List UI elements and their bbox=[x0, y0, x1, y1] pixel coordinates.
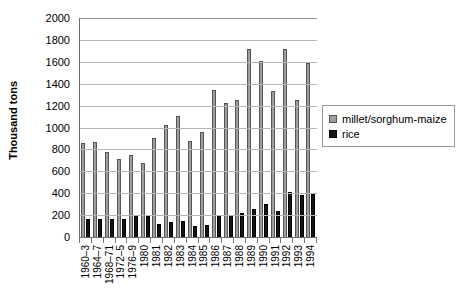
legend-label-millet: millet/sorghum-maize bbox=[342, 113, 447, 125]
x-axis-tick-label: 1985 bbox=[198, 245, 209, 267]
gridline bbox=[80, 128, 317, 129]
x-axis-tick-label: 1976–9 bbox=[127, 245, 138, 278]
bar-millet bbox=[176, 116, 180, 237]
gridline bbox=[80, 193, 317, 194]
bar-rice bbox=[134, 216, 138, 237]
x-axis-tick-label: 1991 bbox=[270, 245, 281, 267]
y-axis-tick-label: 0 bbox=[64, 231, 70, 243]
plot-area bbox=[79, 18, 317, 238]
x-axis-tick bbox=[115, 238, 116, 243]
x-axis-tick-label: 1993 bbox=[293, 245, 304, 267]
y-axis-tick-label: 1600 bbox=[46, 56, 70, 68]
x-axis-tick-label: 1992 bbox=[281, 245, 292, 267]
bar-rice bbox=[229, 215, 233, 237]
bar-millet bbox=[152, 138, 156, 237]
x-axis-tick bbox=[186, 238, 187, 243]
bar-millet bbox=[164, 125, 168, 237]
bar-rice bbox=[110, 219, 114, 237]
x-axis-tick-label: 1989 bbox=[246, 245, 257, 267]
legend-item-millet: millet/sorghum-maize bbox=[329, 111, 447, 126]
bar-rice bbox=[86, 219, 90, 237]
bar-rice bbox=[146, 216, 150, 237]
bar-rice bbox=[193, 226, 197, 237]
y-axis-tick-label: 200 bbox=[52, 209, 70, 221]
x-axis-tick-label: 1972–5 bbox=[115, 245, 126, 278]
x-axis-tick-label: 1984 bbox=[187, 245, 198, 267]
x-axis-tick-label: 1980 bbox=[139, 245, 150, 267]
x-axis-tick bbox=[316, 238, 317, 243]
x-axis-tick bbox=[221, 238, 222, 243]
y-axis-tick-label: 2000 bbox=[46, 12, 70, 24]
bar-millet bbox=[283, 49, 287, 237]
y-axis-tick-label: 800 bbox=[52, 143, 70, 155]
x-axis-tick-label: 1968–71 bbox=[104, 245, 115, 284]
bar-rice bbox=[169, 222, 173, 237]
bar-rice bbox=[98, 219, 102, 237]
legend-item-rice: rice bbox=[329, 126, 447, 141]
x-axis-tick-label: 1988 bbox=[234, 245, 245, 267]
x-axis-tick bbox=[138, 238, 139, 243]
x-axis-tick-label: 1990 bbox=[258, 245, 269, 267]
bar-rice bbox=[122, 219, 126, 237]
y-axis-tick-label: 400 bbox=[52, 187, 70, 199]
bar-rice bbox=[252, 209, 256, 237]
legend-swatch-rice-icon bbox=[329, 130, 337, 138]
chart-legend: millet/sorghum-maize rice bbox=[322, 105, 455, 147]
x-axis-tick bbox=[209, 238, 210, 243]
bar-millet bbox=[224, 103, 228, 237]
bar-millet bbox=[141, 163, 145, 237]
x-axis-tick bbox=[280, 238, 281, 243]
bar-rice bbox=[217, 216, 221, 237]
x-axis-tick bbox=[257, 238, 258, 243]
x-axis-tick bbox=[162, 238, 163, 243]
x-axis-tick bbox=[150, 238, 151, 243]
legend-swatch-millet-icon bbox=[329, 115, 337, 123]
bar-rice bbox=[240, 213, 244, 237]
x-axis-tick bbox=[103, 238, 104, 243]
bar-millet bbox=[235, 100, 239, 237]
x-axis-tick bbox=[292, 238, 293, 243]
bar-millet bbox=[81, 143, 85, 237]
bar-chart: Thousand tons 02004006008001000120014001… bbox=[0, 0, 468, 308]
x-axis-tick bbox=[304, 238, 305, 243]
x-axis-tick bbox=[269, 238, 270, 243]
gridline bbox=[80, 40, 317, 41]
y-axis-tick-label: 1000 bbox=[46, 122, 70, 134]
x-axis-tick-label: 1982 bbox=[163, 245, 174, 267]
y-axis-tick-label: 1200 bbox=[46, 100, 70, 112]
legend-label-rice: rice bbox=[342, 128, 360, 140]
y-axis-tick-labels: 0200400600800100012001400160018002000 bbox=[24, 18, 74, 237]
bar-millet bbox=[188, 141, 192, 237]
x-axis-tick-label: 1981 bbox=[151, 245, 162, 267]
x-axis-tick bbox=[91, 238, 92, 243]
y-axis-tick-label: 1800 bbox=[46, 34, 70, 46]
bar-rice bbox=[264, 204, 268, 237]
x-axis-tick-label: 1986 bbox=[210, 245, 221, 267]
x-axis-tick bbox=[126, 238, 127, 243]
bar-millet bbox=[93, 142, 97, 237]
bar-millet bbox=[247, 49, 251, 237]
x-axis-tick bbox=[245, 238, 246, 243]
bar-millet bbox=[295, 100, 299, 237]
x-axis-tick-label: 1983 bbox=[175, 245, 186, 267]
gridline bbox=[80, 84, 317, 85]
x-axis-tick bbox=[174, 238, 175, 243]
x-axis-tick-label: 1987 bbox=[222, 245, 233, 267]
x-axis-tick-labels: 1960–31964–71968–711972–51976–9198019811… bbox=[79, 245, 316, 305]
gridline bbox=[80, 62, 317, 63]
gridline bbox=[80, 149, 317, 150]
y-axis-title-text: Thousand tons bbox=[7, 81, 19, 160]
bar-millet bbox=[105, 152, 109, 237]
y-axis-tick-label: 600 bbox=[52, 165, 70, 177]
x-axis-tick-label: 1994 bbox=[305, 245, 316, 267]
bar-rice bbox=[181, 221, 185, 237]
x-axis-tick-label: 1964–7 bbox=[92, 245, 103, 278]
bar-millet bbox=[129, 155, 133, 237]
x-axis-tick-label: 1960–3 bbox=[80, 245, 91, 278]
bar-millet bbox=[200, 132, 204, 237]
bar-rice bbox=[205, 225, 209, 237]
gridline bbox=[80, 215, 317, 216]
gridline bbox=[80, 106, 317, 107]
x-axis-ticks bbox=[79, 238, 316, 244]
gridline bbox=[80, 18, 317, 19]
